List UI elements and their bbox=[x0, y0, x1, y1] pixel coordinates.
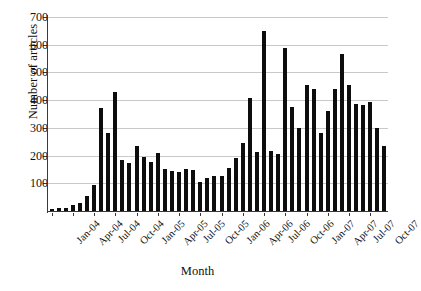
x-tick-mark bbox=[200, 213, 201, 216]
bar bbox=[78, 203, 82, 211]
bar bbox=[234, 158, 238, 211]
bar bbox=[50, 209, 54, 211]
bar bbox=[375, 128, 379, 211]
bar bbox=[312, 89, 316, 211]
bar bbox=[57, 208, 61, 211]
x-tick-label: Oct-07 bbox=[393, 218, 421, 246]
bar bbox=[212, 176, 216, 211]
x-tick-mark bbox=[179, 213, 180, 216]
bar bbox=[149, 162, 153, 211]
y-tick-label: 700 bbox=[8, 11, 48, 23]
bar bbox=[106, 133, 110, 211]
x-axis-ticks: Jan-04Apr-04Jul-04Oct-04Jan-05Apr-05Jul-… bbox=[48, 213, 388, 259]
bar bbox=[340, 54, 344, 211]
bar bbox=[120, 160, 124, 211]
bar bbox=[64, 208, 68, 211]
y-tick-label: 200 bbox=[8, 150, 48, 162]
y-tick-label: 400 bbox=[8, 94, 48, 106]
bar bbox=[85, 196, 89, 211]
bar bbox=[92, 185, 96, 211]
bar bbox=[248, 98, 252, 211]
bar bbox=[191, 170, 195, 211]
bar bbox=[156, 153, 160, 211]
bar bbox=[333, 89, 337, 211]
x-tick-label: Oct-05 bbox=[223, 218, 251, 246]
bar bbox=[361, 105, 365, 211]
x-axis-line bbox=[47, 211, 388, 212]
bar bbox=[255, 152, 259, 211]
x-tick-mark bbox=[264, 213, 265, 216]
bar bbox=[184, 169, 188, 211]
bar bbox=[113, 92, 117, 211]
bar bbox=[198, 182, 202, 211]
bar bbox=[142, 157, 146, 211]
x-axis-title: Month bbox=[0, 264, 395, 279]
bar bbox=[99, 108, 103, 211]
bar bbox=[368, 102, 372, 211]
bar bbox=[163, 169, 167, 211]
x-tick-mark bbox=[328, 213, 329, 216]
bar bbox=[177, 172, 181, 211]
bar bbox=[347, 85, 351, 211]
bar bbox=[326, 111, 330, 211]
bar bbox=[262, 31, 266, 211]
x-tick-label: Oct-04 bbox=[138, 218, 166, 246]
x-tick-mark bbox=[158, 213, 159, 216]
bar bbox=[354, 104, 358, 211]
bar bbox=[382, 146, 386, 211]
bar bbox=[241, 143, 245, 211]
x-tick-mark bbox=[94, 213, 95, 216]
y-axis-ticks: 100200300400500600700 bbox=[0, 0, 48, 291]
x-tick-mark bbox=[307, 213, 308, 216]
bar bbox=[297, 128, 301, 211]
y-tick-label: 500 bbox=[8, 66, 48, 78]
x-tick-mark bbox=[285, 213, 286, 216]
y-tick-label: 300 bbox=[8, 122, 48, 134]
x-tick-label: Oct-06 bbox=[308, 218, 336, 246]
bar bbox=[290, 107, 294, 211]
x-tick-mark bbox=[370, 213, 371, 216]
bar bbox=[269, 151, 273, 211]
bar bbox=[220, 176, 224, 211]
x-tick-mark bbox=[52, 213, 53, 216]
bar bbox=[319, 133, 323, 211]
bar bbox=[205, 178, 209, 211]
x-tick-mark bbox=[222, 213, 223, 216]
x-tick-mark bbox=[73, 213, 74, 216]
bar bbox=[227, 168, 231, 211]
x-tick-mark bbox=[137, 213, 138, 216]
bar bbox=[305, 85, 309, 211]
x-tick-mark bbox=[349, 213, 350, 216]
x-tick-mark bbox=[243, 213, 244, 216]
bar bbox=[283, 48, 287, 212]
bars-layer bbox=[48, 17, 388, 211]
y-tick-label: 100 bbox=[8, 177, 48, 189]
y-tick-label: 600 bbox=[8, 39, 48, 51]
x-tick-mark bbox=[115, 213, 116, 216]
bar bbox=[135, 146, 139, 211]
bar bbox=[170, 171, 174, 211]
bar bbox=[127, 163, 131, 211]
bar bbox=[276, 154, 280, 211]
bar bbox=[71, 205, 75, 211]
